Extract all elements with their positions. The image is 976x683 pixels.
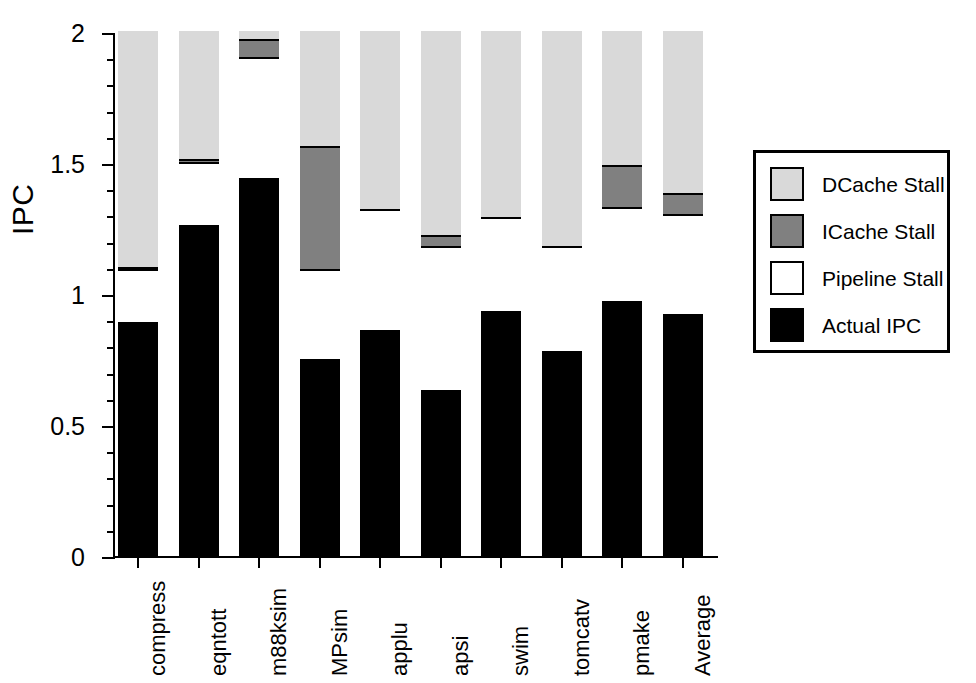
chart-legend: DCache StallICache StallPipeline StallAc… — [753, 150, 950, 353]
y-tick-label: 2 — [71, 21, 95, 46]
bar-segment-dcache — [300, 31, 340, 146]
bar-segment-dcache — [602, 31, 642, 165]
bar-segment-pipeline — [421, 246, 461, 390]
stacked-bar — [481, 33, 521, 557]
bar-segment-icache — [663, 193, 703, 214]
bar-segment-pipeline — [239, 57, 279, 178]
y-axis-major-tick — [102, 33, 115, 35]
bar-segment-actual — [421, 390, 461, 555]
bar-segment-actual — [239, 178, 279, 555]
y-axis-major-tick — [102, 426, 115, 428]
bar-segment-actual — [481, 311, 521, 555]
bar-segment-actual — [118, 322, 158, 555]
bar-segment-pipeline — [542, 246, 582, 351]
y-axis-minor-tick — [107, 478, 115, 480]
bar-segment-actual — [360, 330, 400, 555]
stacked-bar — [179, 33, 219, 557]
x-category-label: pmake — [631, 610, 653, 676]
legend-label: DCache Stall — [822, 174, 945, 195]
x-category-label: applu — [389, 622, 411, 676]
bar-segment-actual — [663, 314, 703, 555]
bar-segment-dcache — [118, 31, 158, 267]
bar-segment-dcache — [481, 31, 521, 217]
legend-swatch — [770, 167, 804, 201]
y-axis-major-tick — [102, 295, 115, 297]
bar-series-group — [118, 33, 718, 557]
stacked-bar — [360, 33, 400, 557]
bar-segment-pipeline — [360, 209, 400, 330]
bar-segment-pipeline — [179, 162, 219, 225]
plot-area — [118, 33, 718, 557]
legend-swatch — [770, 308, 804, 342]
bar-segment-actual — [179, 225, 219, 555]
y-axis-minor-tick — [107, 347, 115, 349]
bar-segment-pipeline — [118, 269, 158, 321]
x-category-label: eqntott — [208, 609, 230, 676]
y-axis-minor-tick — [107, 59, 115, 61]
bar-segment-icache — [239, 39, 279, 57]
legend-swatch — [770, 261, 804, 295]
y-axis-minor-tick — [107, 243, 115, 245]
legend-label: Actual IPC — [822, 315, 921, 336]
legend-item: Actual IPC — [770, 306, 921, 344]
bar-segment-dcache — [179, 31, 219, 159]
y-axis-major-tick — [102, 164, 115, 166]
legend-item: Pipeline Stall — [770, 259, 943, 297]
y-axis-minor-tick — [107, 505, 115, 507]
legend-item: ICache Stall — [770, 212, 935, 250]
bar-segment-actual — [300, 359, 340, 556]
x-category-label: swim — [510, 626, 532, 676]
y-axis-minor-tick — [107, 190, 115, 192]
y-axis-minor-tick — [107, 321, 115, 323]
y-axis-minor-tick — [107, 269, 115, 271]
y-axis-minor-tick — [107, 531, 115, 533]
stacked-bar — [602, 33, 642, 557]
legend-label: ICache Stall — [822, 221, 935, 242]
bar-segment-dcache — [360, 31, 400, 209]
x-category-label: m88ksim — [268, 588, 290, 676]
y-axis-minor-tick — [107, 452, 115, 454]
bar-segment-dcache — [421, 31, 461, 235]
bar-segment-actual — [602, 301, 642, 555]
y-axis-minor-tick — [107, 374, 115, 376]
bar-segment-pipeline — [602, 207, 642, 301]
y-axis-minor-tick — [107, 138, 115, 140]
chart-figure: IPC 21.510.50 compresseqntottm88ksimMPsi… — [0, 0, 976, 683]
x-category-label: Average — [692, 594, 714, 676]
bar-segment-pipeline — [481, 217, 521, 311]
bar-segment-pipeline — [663, 214, 703, 314]
y-axis-ticks — [95, 33, 115, 557]
stacked-bar — [300, 33, 340, 557]
stacked-bar — [118, 33, 158, 557]
y-tick-label: 0.5 — [50, 414, 95, 439]
bar-segment-icache — [602, 165, 642, 207]
bar-segment-dcache — [663, 31, 703, 193]
legend-swatch — [770, 214, 804, 248]
legend-label: Pipeline Stall — [822, 268, 943, 289]
y-tick-label: 1.5 — [50, 152, 95, 177]
stacked-bar — [663, 33, 703, 557]
stacked-bar — [421, 33, 461, 557]
stacked-bar — [239, 33, 279, 557]
stacked-bar — [542, 33, 582, 557]
x-category-label: compress — [147, 581, 169, 676]
x-category-label: apsi — [450, 636, 472, 676]
bar-segment-icache — [300, 146, 340, 269]
x-category-label: tomcatv — [571, 599, 593, 676]
legend-item: DCache Stall — [770, 165, 945, 203]
bar-segment-pipeline — [300, 269, 340, 358]
bar-segment-icache — [421, 235, 461, 245]
y-tick-label: 1 — [71, 283, 95, 308]
y-axis-minor-tick — [107, 400, 115, 402]
y-axis-minor-tick — [107, 85, 115, 87]
x-axis-category-labels: compresseqntottm88ksimMPsimappluapsiswim… — [0, 566, 760, 681]
bar-segment-actual — [542, 351, 582, 555]
y-axis-title: IPC — [6, 183, 40, 235]
bar-segment-dcache — [542, 31, 582, 246]
bar-segment-dcache — [239, 31, 279, 39]
y-axis-minor-tick — [107, 216, 115, 218]
y-axis-minor-tick — [107, 112, 115, 114]
x-category-label: MPsim — [329, 609, 351, 676]
